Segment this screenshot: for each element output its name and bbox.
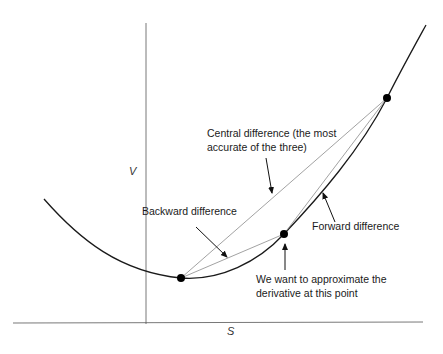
target-point [280,230,288,238]
x-axis-label: S [227,325,234,337]
central-difference-line [181,98,387,278]
x-axis [13,322,423,323]
backward-point [177,274,185,282]
target-point-label-line1: We want to approximate the [256,272,387,286]
central-difference-label-line2: accurate of the three) [207,140,336,154]
central-difference-label: Central difference (the most accurate of… [207,126,336,154]
forward-arrow [323,193,335,222]
backward-difference-label: Backward difference [142,204,237,218]
target-point-label: We want to approximate the derivative at… [256,272,387,300]
forward-point [383,94,391,102]
central-arrow [266,158,272,193]
forward-difference-line [284,98,387,234]
central-difference-label-line1: Central difference (the most [207,126,336,140]
finite-difference-diagram [0,0,443,354]
y-axis-label: V [129,165,136,177]
target-point-label-line2: derivative at this point [256,286,387,300]
forward-difference-label: Forward difference [312,219,399,233]
